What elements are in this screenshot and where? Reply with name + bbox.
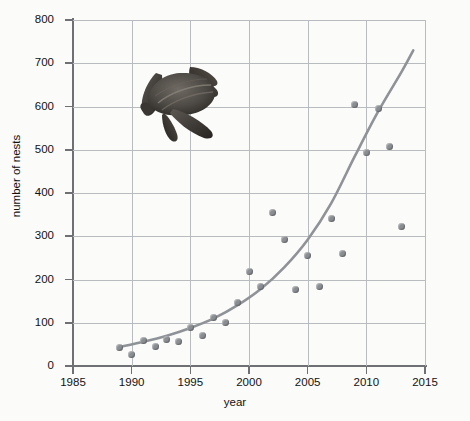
- y-tick-label: 0: [10, 360, 54, 372]
- y-tick-label: 600: [10, 101, 54, 113]
- y-tick-mark: [65, 322, 73, 324]
- data-point: [234, 299, 241, 306]
- y-tick-mark: [65, 62, 73, 64]
- x-tick-mark: [190, 366, 192, 374]
- data-point: [152, 343, 159, 350]
- data-point: [398, 223, 405, 230]
- y-tick-label: 800: [10, 14, 54, 26]
- x-tick-mark: [366, 366, 368, 374]
- gridline-vertical: [249, 20, 250, 366]
- x-tick-label: 2000: [222, 377, 276, 389]
- data-point: [386, 143, 393, 150]
- data-point: [281, 236, 288, 243]
- x-axis-title: year: [0, 396, 470, 408]
- data-point: [351, 101, 358, 108]
- x-tick-mark: [72, 366, 74, 374]
- data-point: [257, 283, 264, 290]
- data-point: [116, 344, 123, 351]
- data-point: [128, 351, 135, 358]
- data-point: [246, 268, 253, 275]
- y-tick-mark: [65, 106, 73, 108]
- y-tick-mark: [65, 235, 73, 237]
- data-point: [222, 319, 229, 326]
- y-tick-label: 100: [10, 317, 54, 329]
- data-point: [175, 338, 182, 345]
- x-tick-mark: [248, 366, 250, 374]
- y-axis-title: number of nests: [10, 116, 22, 236]
- y-tick-mark: [65, 192, 73, 194]
- data-point: [363, 149, 370, 156]
- x-tick-label: 1995: [163, 377, 217, 389]
- gridline-vertical: [425, 20, 426, 366]
- x-tick-label: 2005: [281, 377, 335, 389]
- x-tick-mark: [424, 366, 426, 374]
- y-tick-label: 200: [10, 274, 54, 286]
- chart-figure: 0100200300400500600700800 19851990199520…: [0, 0, 470, 421]
- turtle-photo-icon: [118, 57, 224, 149]
- x-tick-label: 2010: [339, 377, 393, 389]
- data-point: [163, 336, 170, 343]
- x-tick-label: 1985: [46, 377, 100, 389]
- data-point: [199, 332, 206, 339]
- gridline-vertical: [308, 20, 309, 366]
- x-tick-label: 1990: [105, 377, 159, 389]
- data-point: [292, 286, 299, 293]
- data-point: [304, 252, 311, 259]
- y-tick-label: 700: [10, 57, 54, 69]
- data-point: [316, 283, 323, 290]
- y-tick-mark: [65, 19, 73, 21]
- data-point: [187, 324, 194, 331]
- data-point: [269, 209, 276, 216]
- x-tick-mark: [131, 366, 133, 374]
- gridline-vertical: [366, 20, 367, 366]
- y-tick-mark: [65, 149, 73, 151]
- data-point: [328, 215, 335, 222]
- data-point: [375, 105, 382, 112]
- data-point: [339, 250, 346, 257]
- y-tick-mark: [65, 279, 73, 281]
- data-point: [140, 337, 147, 344]
- data-point: [210, 314, 217, 321]
- x-tick-mark: [307, 366, 309, 374]
- x-tick-label: 2015: [398, 377, 452, 389]
